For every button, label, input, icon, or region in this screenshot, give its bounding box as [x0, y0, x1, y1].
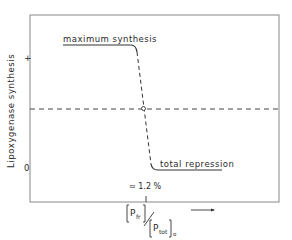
svg-text:tot: tot	[159, 228, 168, 235]
threshold-label: ≈ 1.2 %	[129, 182, 162, 191]
y-axis-label: Lipoxygenase synthesis	[6, 54, 16, 168]
total-repression-label: total repression	[160, 159, 234, 169]
svg-text:fr: fr	[136, 213, 141, 220]
sigmoid-diagram: Lipoxygenase synthesis + 0 maximum synth…	[0, 0, 292, 240]
x-axis-label: P fr P tot o	[127, 205, 177, 237]
max-plateau-line	[63, 45, 137, 52]
y-tick-zero: 0	[24, 163, 29, 173]
midpoint-marker	[142, 107, 146, 111]
y-tick-plus: +	[24, 53, 32, 63]
svg-text:o: o	[173, 231, 177, 237]
x-direction-arrow-icon	[191, 209, 215, 212]
max-synthesis-label: maximum synthesis	[63, 34, 157, 44]
